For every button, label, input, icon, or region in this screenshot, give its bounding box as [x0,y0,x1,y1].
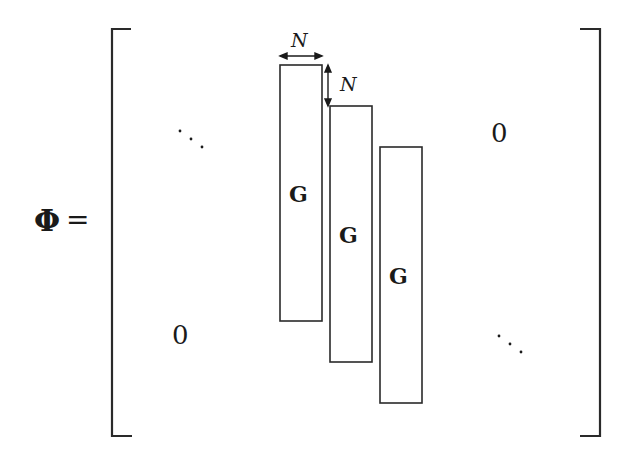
width-arrow-icon [280,53,322,59]
shift-arrow-icon [325,65,331,106]
right-bracket [580,29,600,436]
width-label: N [291,31,308,50]
equals-sign: = [66,206,89,234]
left-bracket [112,29,132,436]
block-g-2-label: G [339,224,358,246]
block-g-3-label: G [389,265,408,287]
phi-symbol: Φ [34,206,60,236]
matrix-diagram [0,0,632,453]
diagonal-dots-upper [179,130,204,149]
diagonal-dots-lower [498,335,523,354]
zero-upper-right: 0 [491,120,508,146]
block-g-1-label: G [289,183,308,205]
shift-label: N [340,75,357,94]
zero-lower-left: 0 [172,322,189,348]
